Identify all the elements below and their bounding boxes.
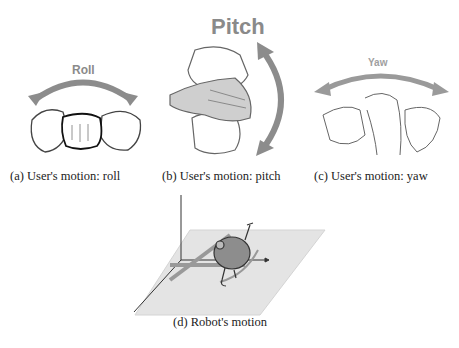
hands-icon bbox=[170, 47, 251, 154]
caption-robot: (d) Robot's motion bbox=[173, 315, 267, 330]
roll-arrow-icon bbox=[28, 83, 138, 107]
roll-illustration bbox=[0, 0, 150, 165]
roll-label: Roll bbox=[72, 63, 95, 77]
caption-pitch: (b) User's motion: pitch bbox=[162, 169, 281, 184]
yaw-label: Yaw bbox=[368, 57, 387, 68]
caption-roll: (a) User's motion: roll bbox=[10, 169, 120, 184]
pitch-arrow-icon bbox=[256, 42, 281, 156]
caption-yaw: (c) User's motion: yaw bbox=[314, 169, 428, 184]
panel-robot: (d) Robot's motion bbox=[130, 190, 330, 348]
fists-icon bbox=[31, 110, 140, 152]
yaw-illustration bbox=[305, 0, 459, 165]
yaw-hands-icon bbox=[323, 93, 440, 155]
pitch-label: Pitch bbox=[211, 14, 265, 40]
robot-illustration bbox=[130, 190, 330, 320]
